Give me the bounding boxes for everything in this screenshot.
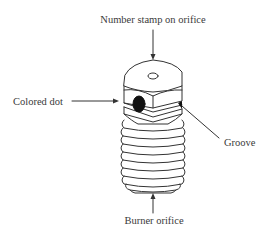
colored-dot	[133, 96, 145, 112]
burner-orifice-arrow	[151, 193, 156, 213]
colored-dot-leader	[72, 99, 119, 104]
label-number-stamp: Number stamp on orifice	[90, 14, 216, 26]
hex-head	[124, 60, 182, 124]
threads	[121, 120, 185, 193]
groove-leader	[182, 106, 219, 138]
number-stamp-arrow	[151, 30, 156, 60]
orifice-diagram: Number stamp on orifice Colored dot Groo…	[0, 0, 274, 242]
label-colored-dot: Colored dot	[13, 96, 63, 108]
label-burner-orifice: Burner orifice	[100, 215, 208, 227]
label-groove: Groove	[224, 137, 256, 149]
orifice-illustration	[0, 0, 274, 242]
